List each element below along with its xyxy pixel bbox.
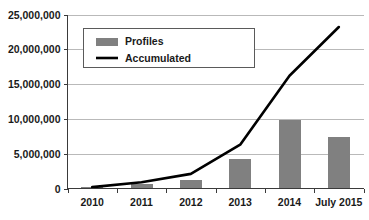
x-tick-label: 2014 bbox=[278, 196, 302, 208]
x-tick-label: 2011 bbox=[130, 196, 153, 208]
y-tick-label: 25,000,000 bbox=[8, 9, 61, 21]
bar-2014 bbox=[279, 120, 301, 188]
y-tick-label: 10,000,000 bbox=[8, 113, 61, 125]
y-tick-label: 20,000,000 bbox=[8, 43, 61, 55]
y-tick-label: 15,000,000 bbox=[8, 78, 61, 90]
x-tick-label: 2010 bbox=[80, 196, 104, 208]
legend-label-profiles: Profiles bbox=[125, 35, 164, 47]
chart-container: 05,000,00010,000,00015,000,00020,000,000… bbox=[0, 0, 369, 220]
legend-swatch-profiles bbox=[96, 38, 118, 46]
legend-label-accumulated: Accumulated bbox=[125, 52, 191, 64]
x-tick-label: July 2015 bbox=[315, 196, 362, 208]
bar-july-2015 bbox=[328, 137, 350, 189]
chart-legend: Profiles Accumulated bbox=[84, 29, 255, 68]
x-tick-label: 2012 bbox=[179, 196, 203, 208]
combo-bar-line-chart: 05,000,00010,000,00015,000,00020,000,000… bbox=[0, 0, 369, 220]
x-tick-label: 2013 bbox=[228, 196, 252, 208]
bar-2012 bbox=[180, 180, 202, 188]
y-tick-label: 5,000,000 bbox=[14, 148, 61, 160]
bar-2013 bbox=[229, 159, 251, 189]
y-tick-label: 0 bbox=[55, 183, 61, 195]
